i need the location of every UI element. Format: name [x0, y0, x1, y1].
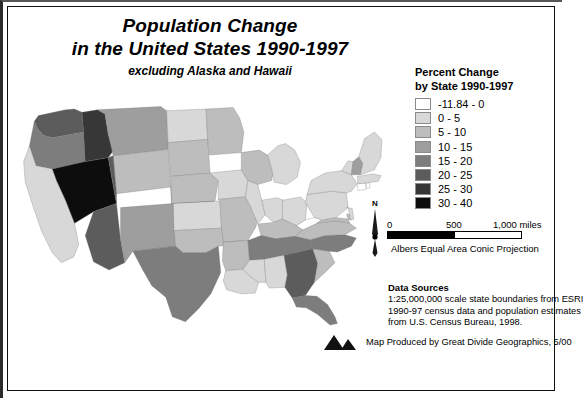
legend-swatch — [415, 126, 431, 138]
state-al — [264, 255, 287, 288]
legend-label: 30 - 40 — [438, 197, 472, 209]
choropleth-map — [12, 100, 400, 330]
state-tx — [133, 246, 221, 322]
north-arrow-label: N — [364, 199, 386, 208]
scale-tick-500: 500 — [446, 219, 462, 230]
legend-label: 25 - 30 — [438, 183, 472, 195]
scale-tick-0: 0 — [387, 219, 392, 230]
legend-swatch — [415, 197, 431, 209]
state-mn — [206, 107, 244, 155]
page-title-line-1: Population Change — [0, 14, 420, 37]
scale-bar: 0 500 1,000 miles Albers Equal Area Coni… — [387, 219, 537, 254]
scale-bar-segment-dark — [388, 232, 455, 238]
producer-credit-text: Map Produced by Great Divide Geographics… — [366, 337, 572, 347]
state-nj — [346, 208, 353, 220]
data-sources-heading: Data Sources — [388, 282, 558, 294]
data-sources-line-3: from U.S. Census Bureau, 1998. — [388, 317, 558, 329]
projection-label: Albers Equal Area Conic Projection — [391, 243, 537, 254]
state-sd — [168, 139, 210, 176]
legend-row: 30 - 40 — [415, 196, 545, 210]
legend-row: 25 - 30 — [415, 182, 545, 196]
page-subtitle: excluding Alaska and Hawaii — [0, 62, 420, 80]
legend-row: 10 - 15 — [415, 140, 545, 154]
legend-swatch — [415, 112, 431, 124]
legend-label: 15 - 20 — [438, 155, 472, 167]
north-arrow: N — [364, 199, 386, 261]
state-in — [262, 198, 283, 223]
state-ma — [357, 174, 381, 184]
state-nd — [167, 109, 208, 143]
legend-swatch — [415, 98, 431, 110]
us-states-svg — [12, 100, 400, 330]
state-ct — [357, 183, 366, 190]
map-legend: Percent Change by State 1990-1997 -11.84… — [415, 66, 545, 211]
legend-label: 10 - 15 — [438, 141, 472, 153]
legend-row: -11.84 - 0 — [415, 97, 545, 111]
legend-label: 20 - 25 — [438, 169, 472, 181]
legend-row: 0 - 5 — [415, 111, 545, 125]
legend-class-list: -11.84 - 00 - 55 - 1010 - 1515 - 2020 - … — [415, 97, 545, 211]
legend-row: 15 - 20 — [415, 154, 545, 168]
producer-credit: Map Produced by Great Divide Geographics… — [322, 333, 572, 351]
data-sources-line-1: 1:25,000,000 scale state boundaries from… — [388, 294, 558, 306]
scale-tick-1000: 1,000 miles — [493, 219, 542, 230]
state-me — [359, 132, 382, 175]
legend-swatch — [415, 183, 431, 195]
state-az — [85, 204, 124, 271]
scale-bar-graphic — [387, 231, 522, 239]
mountains-logo-icon — [322, 333, 358, 351]
legend-title-line-1: Percent Change — [415, 66, 545, 80]
state-pa — [305, 191, 348, 220]
page-title-line-2: in the United States 1990-1997 — [0, 37, 420, 60]
legend-label: -11.84 - 0 — [438, 98, 484, 110]
states-layer — [24, 107, 382, 325]
legend-swatch — [415, 169, 431, 181]
legend-title-line-2: by State 1990-1997 — [415, 80, 545, 94]
state-ks — [173, 201, 221, 231]
state-ny — [307, 171, 357, 195]
legend-label: 0 - 5 — [438, 112, 460, 124]
data-sources-block: Data Sources 1:25,000,000 scale state bo… — [388, 282, 558, 329]
state-mi — [268, 144, 301, 185]
legend-row: 5 - 10 — [415, 125, 545, 139]
data-sources-line-2: 1990-97 census data and population estim… — [388, 306, 558, 318]
state-ne — [171, 173, 219, 203]
legend-row: 20 - 25 — [415, 168, 545, 182]
state-ga — [284, 249, 318, 298]
scale-bar-ticks: 0 500 1,000 miles — [387, 219, 537, 231]
scale-bar-segment-light — [455, 232, 522, 238]
state-wy — [113, 149, 171, 193]
legend-swatch — [415, 155, 431, 167]
state-ri — [366, 183, 370, 189]
state-fl — [292, 296, 337, 326]
legend-swatch — [415, 141, 431, 153]
map-title-block: Population Change in the United States 1… — [0, 14, 420, 80]
north-arrow-icon — [364, 208, 386, 258]
legend-label: 5 - 10 — [438, 126, 466, 138]
